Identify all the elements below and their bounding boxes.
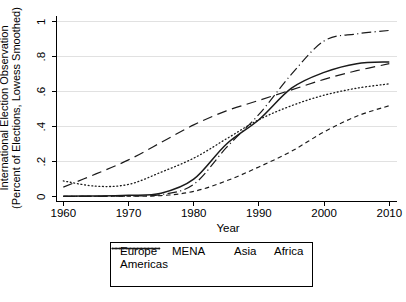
series-curves — [63, 30, 389, 196]
y-tick-label: .8 — [35, 52, 47, 62]
legend-box: EuropeMENAAsiaAfricaAmericas — [110, 242, 313, 287]
curve-europe — [63, 62, 389, 196]
legend-label-africa: Africa — [270, 245, 313, 257]
curve-asia — [63, 84, 389, 187]
x-ticks: 196019701980199020002010 — [51, 202, 403, 219]
y-axis-title-line2: (Percent of Elections, Lowess Smoothed) — [10, 7, 22, 209]
y-tick-label: 0 — [35, 193, 47, 199]
y-ticks: 0.2.4.6.81 — [35, 18, 56, 199]
gridlines — [56, 22, 396, 162]
y-tick-label: 1 — [35, 18, 47, 24]
y-tick-label: .2 — [35, 157, 47, 167]
legend-label-asia: Asia — [230, 245, 270, 257]
y-tick-label: .4 — [35, 121, 47, 131]
y-axis-title-line1: International Election Observation — [0, 25, 10, 190]
x-tick-label: 2010 — [377, 207, 403, 219]
curve-americas — [63, 64, 389, 187]
x-axis-title: Year — [216, 222, 239, 234]
legend-sample-americas — [111, 243, 163, 254]
x-tick-label: 1990 — [246, 207, 272, 219]
chart-figure: 0.2.4.6.81 196019701980199020002010 Year… — [0, 0, 406, 302]
x-tick-label: 1970 — [116, 207, 142, 219]
y-tick-label: .6 — [35, 87, 47, 97]
x-tick-label: 1980 — [181, 207, 207, 219]
curve-mena — [63, 106, 389, 197]
legend-label-americas: Americas — [116, 258, 168, 270]
legend-label-mena: MENA — [168, 245, 230, 257]
curve-africa — [63, 30, 389, 196]
x-tick-label: 1960 — [51, 207, 77, 219]
x-tick-label: 2000 — [311, 207, 337, 219]
